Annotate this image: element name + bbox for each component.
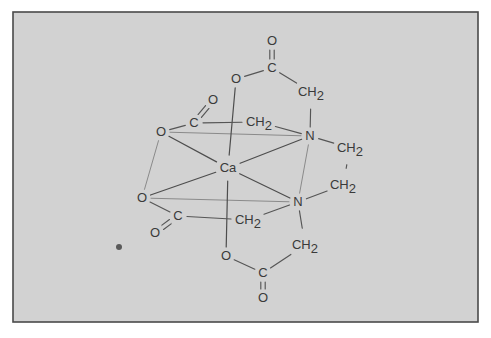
atom-label-o-lower-left-bridge: O <box>137 190 147 205</box>
atom-label-o-top-bridge: O <box>231 71 241 86</box>
atom-label-ca: Ca <box>220 160 237 175</box>
atom-subscript: 2 <box>265 118 272 133</box>
atom-label-c-bottom-carboxyl: C <box>258 265 267 280</box>
atom-label-c-lower-left-carboxyl: C <box>173 208 182 223</box>
bond-c-ch2-upper-left <box>203 122 242 123</box>
scan-speck-artifact <box>116 244 122 250</box>
atom-label-o-bottom-carbonyl: O <box>258 290 268 305</box>
atom-subscript: 2 <box>254 216 261 231</box>
atom-label-n-upper: N <box>305 128 314 143</box>
atom-label-o-upper-left-carbonyl: O <box>208 92 218 107</box>
figure-border-frame <box>13 12 478 322</box>
atom-label-c-top-carboxyl: C <box>267 60 276 75</box>
atom-label-o-top-carbonyl: O <box>267 33 277 48</box>
figure-root: CaNNOCOCH2OCOCH2OCOCH2OCOCH2CH2CH2 <box>0 0 491 338</box>
atom-subscript: 2 <box>311 241 318 256</box>
atom-label-o-lower-left-carbonyl: O <box>150 225 160 240</box>
atom-label-o-upper-left-bridge: O <box>156 124 166 139</box>
atom-subscript: 2 <box>356 144 363 159</box>
atom-subscript: 2 <box>349 181 356 196</box>
atom-subscript: 2 <box>317 88 324 103</box>
chemical-structure-diagram: CaNNOCOCH2OCOCH2OCOCH2OCOCH2CH2CH2 <box>0 0 491 338</box>
bond-ch2-ch2-bridge <box>346 165 347 169</box>
atom-label-n-lower: N <box>293 194 302 209</box>
artifact-layer <box>116 244 122 250</box>
atom-label-c-upper-left-carboxyl: C <box>189 115 198 130</box>
atom-label-o-bottom-bridge: O <box>221 248 231 263</box>
